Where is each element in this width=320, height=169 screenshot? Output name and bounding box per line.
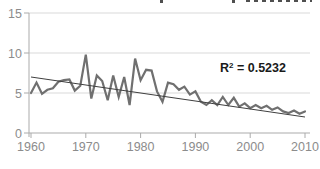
y-tick-label-5: 5	[15, 87, 22, 101]
x-tick-label-2000: 2000	[236, 140, 264, 154]
x-tick-label-1970: 1970	[72, 140, 100, 154]
y-tick-label-15: 15	[8, 7, 22, 21]
r-squared-annotation: R2 = 0.5232	[220, 61, 286, 75]
y-tick-label-0: 0	[15, 127, 22, 141]
r-squared-text: R	[220, 61, 229, 75]
x-tick-label-1990: 1990	[181, 140, 209, 154]
chart-plot-area: 051015196019701980199020002010	[0, 0, 320, 169]
x-tick-label-1960: 1960	[17, 140, 45, 154]
y-tick-label-10: 10	[8, 47, 22, 61]
r-squared-value: = 0.5232	[233, 61, 285, 75]
line-chart: 051015196019701980199020002010 R2 = 0.52…	[0, 0, 320, 169]
x-tick-label-2010: 2010	[291, 140, 319, 154]
x-tick-label-1980: 1980	[127, 140, 155, 154]
